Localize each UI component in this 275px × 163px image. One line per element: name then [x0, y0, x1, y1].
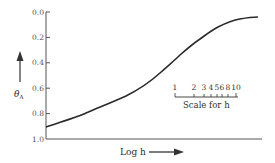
y-axis-label: θA	[14, 89, 24, 100]
y-ticks	[46, 12, 50, 114]
svg-text:4: 4	[209, 83, 214, 92]
svg-text:6: 6	[220, 83, 225, 92]
data-curve	[46, 17, 258, 127]
x-axis-arrow-icon	[149, 149, 184, 156]
svg-text:8: 8	[226, 83, 231, 92]
y-tick-label: 1.0	[32, 135, 44, 144]
y-axis-arrow-icon	[17, 51, 24, 82]
chart: 0.0 0.2 0.4 0.6 0.8 1.0 θA 1 2 3 4 5 6 8…	[0, 0, 275, 163]
y-tick-label: 0.0	[32, 8, 44, 17]
y-tick-label: 0.6	[32, 84, 44, 93]
svg-text:2: 2	[192, 83, 197, 92]
svg-text:1: 1	[173, 83, 178, 92]
scale-title: Scale for h	[183, 100, 230, 110]
y-tick-label: 0.8	[32, 109, 44, 118]
svg-text:10: 10	[231, 83, 241, 92]
svg-text:3: 3	[202, 83, 207, 92]
scale-for-h-inset: 1 2 3 4 5 6 8 10 Scale for h	[173, 83, 241, 110]
y-tick-label: 0.2	[32, 33, 44, 42]
x-axis-label: Log h	[120, 147, 146, 157]
y-tick-label: 0.4	[32, 58, 44, 67]
